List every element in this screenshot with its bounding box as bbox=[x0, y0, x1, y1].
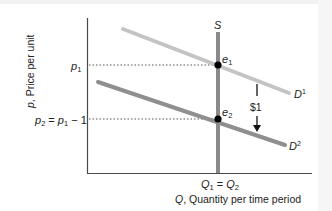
p1-tick-label: p1 bbox=[70, 60, 81, 74]
d1-label: D1 bbox=[294, 88, 306, 100]
d2-label: D2 bbox=[289, 140, 301, 152]
x-axis-title: Q, Quantity per time period bbox=[175, 193, 301, 205]
equilibrium-e1-point bbox=[214, 61, 221, 68]
q-tick-label: Q1 = Q2 bbox=[201, 178, 239, 192]
shift-amount-label: $1 bbox=[250, 101, 262, 113]
arrow-down-icon bbox=[253, 125, 261, 132]
p2-tick-label: p2 = p1 − 1 bbox=[34, 114, 87, 128]
e1-label: e1 bbox=[222, 53, 232, 67]
equilibrium-e2-point bbox=[214, 115, 221, 122]
y-axis-title: p, Price per unit bbox=[24, 34, 36, 109]
demand-curve-d1 bbox=[123, 29, 289, 93]
e2-label: e2 bbox=[222, 106, 232, 120]
supply-demand-chart: S e1 e2 $1 D1 D2 p1 p2 = p1 − 1 Q1 = Q2 … bbox=[0, 0, 332, 211]
supply-label: S bbox=[214, 19, 222, 31]
